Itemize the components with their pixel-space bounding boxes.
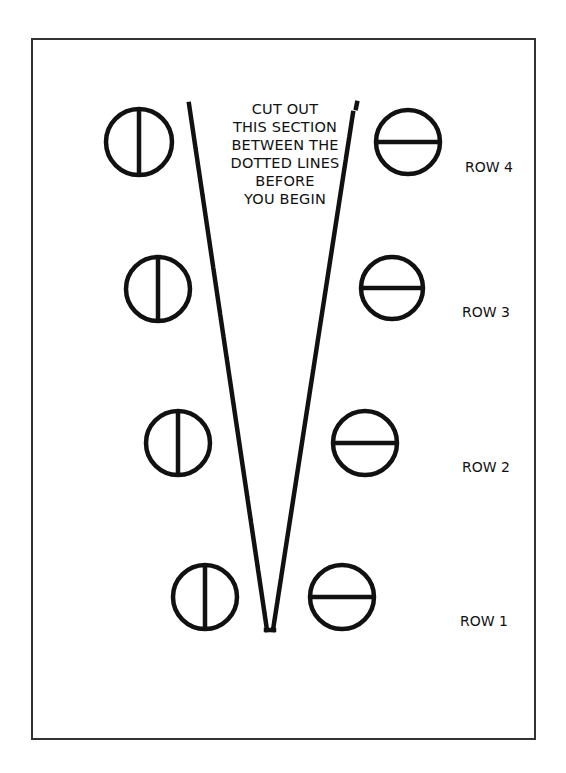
row3-left-circle-vertical-bar-icon <box>126 257 190 321</box>
instruction-line: BEFORE <box>215 172 355 190</box>
row1-left-circle-vertical-bar-icon <box>173 565 237 629</box>
instruction-line: CUT OUT <box>215 100 355 118</box>
row2-left-circle-vertical-bar-icon <box>146 411 210 475</box>
instruction-line: DOTTED LINES <box>215 154 355 172</box>
cut-instructions: CUT OUT THIS SECTION BETWEEN THE DOTTED … <box>215 100 355 208</box>
instruction-line: BETWEEN THE <box>215 136 355 154</box>
row-label-1: ROW 1 <box>460 613 508 629</box>
row1-right-circle-horizontal-bar-icon <box>310 565 374 629</box>
row-label-4: ROW 4 <box>465 159 513 175</box>
right-cut-line-tip <box>356 103 357 108</box>
row4-right-circle-horizontal-bar-icon <box>376 110 440 174</box>
row4-left-circle-vertical-bar-icon <box>106 109 172 175</box>
instruction-line: THIS SECTION <box>215 118 355 136</box>
row3-right-circle-horizontal-bar-icon <box>361 257 423 319</box>
row2-right-circle-horizontal-bar-icon <box>333 411 397 475</box>
row-label-2: ROW 2 <box>462 459 510 475</box>
instruction-line: YOU BEGIN <box>215 190 355 208</box>
row-label-3: ROW 3 <box>462 304 510 320</box>
